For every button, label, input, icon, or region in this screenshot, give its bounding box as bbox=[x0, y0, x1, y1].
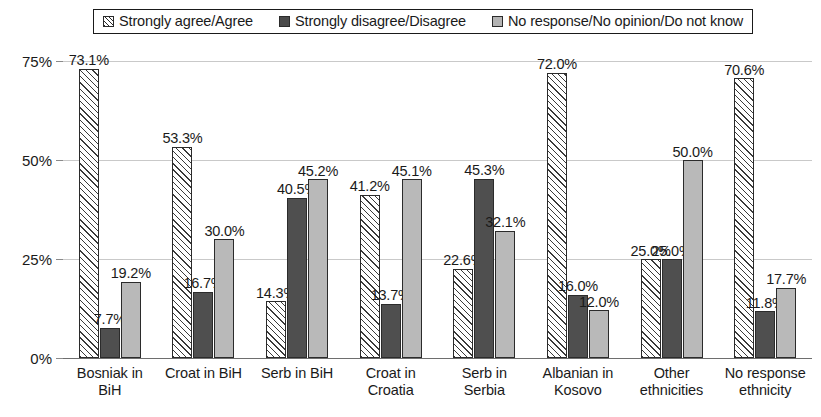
y-tick-label: 75% bbox=[22, 53, 52, 70]
bar[interactable]: 11.8% bbox=[755, 311, 775, 358]
bar[interactable]: 45.1% bbox=[402, 179, 422, 358]
bar[interactable]: 25.0% bbox=[662, 259, 682, 358]
legend-entry-no-response: No response/No opinion/Do not know bbox=[492, 14, 743, 29]
bars: 22.6%45.3%32.1% bbox=[438, 61, 532, 358]
bar[interactable]: 50.0% bbox=[683, 160, 703, 358]
bar-group: 41.2%13.7%45.1%Croat inCroatia bbox=[344, 61, 438, 358]
x-axis-line bbox=[63, 358, 812, 359]
bar[interactable]: 41.2% bbox=[360, 195, 380, 358]
bar-group: 25.0%25.0%50.0%Otherethnicities bbox=[625, 61, 719, 358]
bar-value-label: 72.0% bbox=[537, 57, 577, 72]
bar-value-label: 16.0% bbox=[558, 279, 598, 294]
bar[interactable]: 13.7% bbox=[381, 304, 401, 358]
bar-value-label: 53.3% bbox=[162, 131, 202, 146]
bar-group: 22.6%45.3%32.1%Serb inSerbia bbox=[438, 61, 532, 358]
y-tick-mark bbox=[56, 259, 63, 260]
y-tick-label: 50% bbox=[22, 152, 52, 169]
bar-value-label: 45.3% bbox=[464, 163, 504, 178]
y-tick-label: 25% bbox=[22, 251, 52, 268]
chart-plot-area: 0%25%50%75% 73.1%7.7%19.2%Bosniak inBiH5… bbox=[63, 61, 812, 358]
category-label: No responseethnicity bbox=[713, 365, 817, 399]
bar-value-label: 45.1% bbox=[392, 164, 432, 179]
y-tick-label: 0% bbox=[30, 350, 52, 367]
bar[interactable]: 17.7% bbox=[776, 288, 796, 358]
category-label: Otherethnicities bbox=[620, 365, 724, 399]
legend-label: No response/No opinion/Do not know bbox=[508, 14, 743, 29]
bars: 70.6%11.8%17.7% bbox=[718, 61, 812, 358]
dark-gray-swatch-icon bbox=[279, 16, 290, 27]
legend-label: Strongly agree/Agree bbox=[119, 14, 253, 29]
bars: 25.0%25.0%50.0% bbox=[625, 61, 719, 358]
bar-group: 73.1%7.7%19.2%Bosniak inBiH bbox=[63, 61, 157, 358]
bar[interactable]: 45.2% bbox=[308, 179, 328, 358]
bar-group: 70.6%11.8%17.7%No responseethnicity bbox=[718, 61, 812, 358]
bar[interactable]: 22.6% bbox=[453, 269, 473, 358]
y-tick-mark bbox=[56, 160, 63, 161]
bar-value-label: 41.2% bbox=[350, 179, 390, 194]
bar-value-label: 50.0% bbox=[673, 145, 713, 160]
bar[interactable]: 40.5% bbox=[287, 198, 307, 358]
bar-group: 14.3%40.5%45.2%Serb in BiH bbox=[250, 61, 344, 358]
bar[interactable]: 30.0% bbox=[214, 239, 234, 358]
bar[interactable]: 45.3% bbox=[474, 179, 494, 358]
category-label: Croat in BiH bbox=[151, 365, 255, 382]
legend-entry-strongly-agree: Strongly agree/Agree bbox=[103, 14, 253, 29]
y-tick-mark bbox=[56, 358, 63, 359]
category-label: Serb inSerbia bbox=[432, 365, 536, 399]
bar-value-label: 70.6% bbox=[724, 63, 764, 78]
bar-group: 53.3%16.7%30.0%Croat in BiH bbox=[157, 61, 251, 358]
category-label: Serb in BiH bbox=[245, 365, 349, 382]
bar-value-label: 12.0% bbox=[579, 295, 619, 310]
bar[interactable]: 14.3% bbox=[266, 301, 286, 358]
category-label: Albanian inKosovo bbox=[526, 365, 630, 399]
bars: 73.1%7.7%19.2% bbox=[63, 61, 157, 358]
light-gray-swatch-icon bbox=[492, 16, 503, 27]
bar-value-label: 73.1% bbox=[69, 53, 109, 68]
legend-label: Strongly disagree/Disagree bbox=[295, 14, 466, 29]
bar[interactable]: 32.1% bbox=[495, 231, 515, 358]
bar[interactable]: 12.0% bbox=[589, 310, 609, 358]
chart-legend: Strongly agree/Agree Strongly disagree/D… bbox=[93, 9, 753, 34]
y-tick-mark bbox=[56, 61, 63, 62]
category-label: Croat inCroatia bbox=[339, 365, 443, 399]
bar[interactable]: 53.3% bbox=[172, 147, 192, 358]
bars: 72.0%16.0%12.0% bbox=[531, 61, 625, 358]
bar-value-label: 30.0% bbox=[204, 224, 244, 239]
bars: 53.3%16.7%30.0% bbox=[157, 61, 251, 358]
bar-value-label: 19.2% bbox=[111, 266, 151, 281]
bars: 14.3%40.5%45.2% bbox=[250, 61, 344, 358]
category-label: Bosniak inBiH bbox=[58, 365, 162, 399]
bar[interactable]: 19.2% bbox=[121, 282, 141, 358]
bar-value-label: 17.7% bbox=[766, 272, 806, 287]
bar[interactable]: 70.6% bbox=[734, 78, 754, 358]
bar[interactable]: 16.7% bbox=[193, 292, 213, 358]
bar-group: 72.0%16.0%12.0%Albanian inKosovo bbox=[531, 61, 625, 358]
bar[interactable]: 72.0% bbox=[547, 73, 567, 358]
bar[interactable]: 7.7% bbox=[100, 328, 120, 358]
bar-value-label: 32.1% bbox=[485, 215, 525, 230]
bar-value-label: 45.2% bbox=[298, 164, 338, 179]
bar[interactable]: 25.0% bbox=[641, 259, 661, 358]
hatch-pattern-swatch-icon bbox=[103, 16, 114, 27]
bars: 41.2%13.7%45.1% bbox=[344, 61, 438, 358]
legend-entry-strongly-disagree: Strongly disagree/Disagree bbox=[279, 14, 466, 29]
